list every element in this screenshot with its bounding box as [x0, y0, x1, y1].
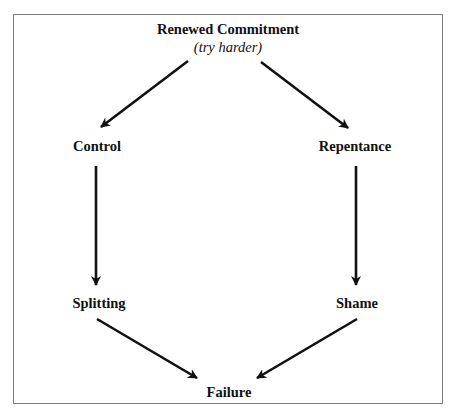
arrows-layer — [0, 0, 454, 417]
node-shame: Shame — [336, 296, 378, 311]
node-splitting: Splitting — [72, 296, 125, 311]
node-renewed-commitment-sublabel: (try harder) — [194, 40, 262, 55]
arrow-commitment-to-repentance — [261, 62, 348, 128]
node-renewed-commitment: Renewed Commitment — [157, 22, 299, 37]
node-control: Control — [73, 139, 121, 154]
node-failure: Failure — [207, 385, 252, 400]
arrow-commitment-to-control — [101, 61, 188, 127]
node-repentance: Repentance — [319, 139, 392, 154]
arrow-shame-to-failure — [257, 319, 357, 378]
arrow-splitting-to-failure — [97, 319, 197, 378]
